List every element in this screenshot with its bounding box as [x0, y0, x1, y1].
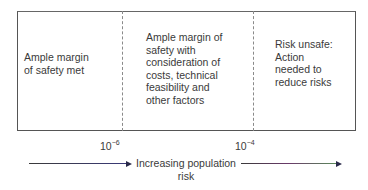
region-mid-risk: Ample margin of safety with consideratio… — [146, 31, 222, 106]
region-high-line: Action — [275, 51, 333, 64]
region-mid-line: safety with — [146, 44, 222, 57]
region-low-line: Ample margin — [24, 51, 89, 64]
region-low-line: of safety met — [24, 64, 89, 77]
region-mid-line: costs, technical — [146, 69, 222, 82]
region-high-line: needed to — [275, 63, 333, 76]
region-high-line: Risk unsafe: — [275, 38, 333, 51]
threshold-line-1e-6 — [122, 11, 123, 131]
region-mid-line: Ample margin of — [146, 31, 222, 44]
threshold-label-1e-6: 10−6 — [100, 139, 120, 152]
region-mid-line: feasibility and — [146, 81, 222, 94]
arrow-right-icon — [336, 161, 342, 167]
arrow-right-shaft — [241, 163, 336, 164]
threshold-label-1e-4: 10−4 — [235, 139, 255, 152]
region-mid-line: consideration of — [146, 56, 222, 69]
region-high-line: reduce risks — [275, 76, 333, 89]
axis-label: Increasing population risk — [130, 157, 242, 182]
region-mid-line: other factors — [146, 94, 222, 107]
arrow-left-shaft — [29, 163, 127, 164]
threshold-line-1e-4 — [253, 11, 254, 131]
region-high-risk: Risk unsafe: Action needed to reduce ris… — [275, 38, 333, 88]
region-low-risk: Ample margin of safety met — [24, 51, 89, 76]
